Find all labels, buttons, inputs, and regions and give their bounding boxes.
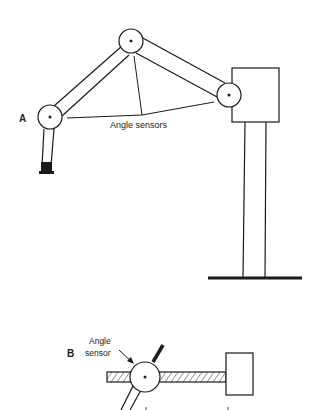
angle-sensor-label-line2: sensor xyxy=(85,348,111,358)
joint-right xyxy=(217,83,241,107)
panel-a-label: A xyxy=(19,113,26,124)
link-forearm xyxy=(42,129,54,166)
panel-a xyxy=(38,29,302,278)
link-upper-left xyxy=(54,46,129,116)
angle-sensors-label: Angle sensors xyxy=(110,120,168,130)
joint-a xyxy=(38,105,62,129)
joint-top xyxy=(119,29,143,53)
robot-arm-diagram: A Angle sensors B Angle sensor xyxy=(0,0,317,410)
link-upper-right xyxy=(136,37,225,98)
b-housing xyxy=(226,353,253,395)
panel-b xyxy=(107,345,253,410)
hatched-bar-right xyxy=(158,372,226,382)
b-black-handle xyxy=(153,345,163,362)
panel-b-label: B xyxy=(67,348,74,359)
joint-b xyxy=(130,362,160,392)
base-column xyxy=(243,122,266,278)
end-effector-tip xyxy=(41,162,52,172)
angle-sensor-label-line1: Angle xyxy=(89,336,111,346)
